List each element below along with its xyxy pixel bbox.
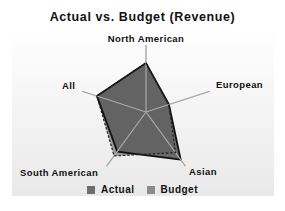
legend-label-budget: Budget: [161, 184, 198, 195]
legend-item-actual[interactable]: Actual: [87, 184, 135, 195]
legend-item-budget[interactable]: Budget: [147, 184, 198, 195]
legend: Actual Budget: [0, 184, 285, 195]
radar-chart: Actual vs. Budget (Revenue) North Americ…: [0, 0, 285, 211]
legend-label-actual: Actual: [101, 184, 135, 195]
axis-label-south-american: South American: [20, 167, 98, 178]
axis-label-all: All: [62, 80, 75, 91]
axis-label-european: European: [216, 79, 263, 90]
radar-plot: North AmericanEuropeanAsianSouth America…: [0, 0, 285, 211]
legend-swatch-actual: [87, 186, 95, 194]
legend-swatch-budget: [147, 186, 155, 194]
axis-label-north-american: North American: [108, 33, 185, 44]
axis-label-asian: Asian: [189, 166, 217, 177]
